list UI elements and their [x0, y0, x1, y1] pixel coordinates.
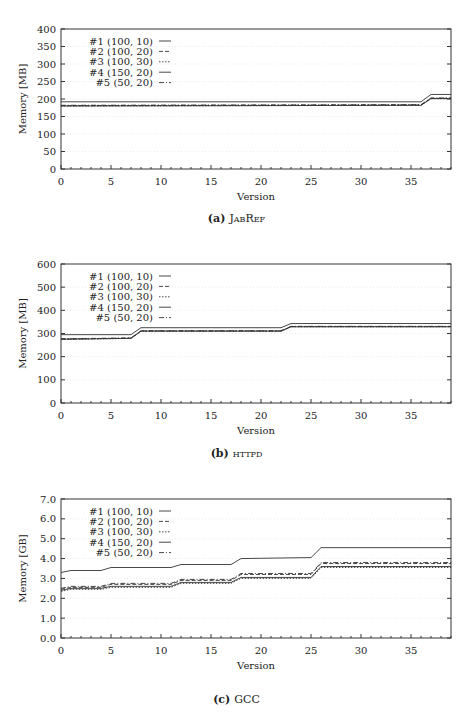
x-tick-label: 5: [108, 410, 114, 421]
x-tick-label: 35: [405, 176, 418, 187]
legend-label: #5 (50, 20): [95, 547, 153, 558]
caption-httpd: (b)httpd: [0, 447, 473, 460]
y-tick-label: 0: [50, 398, 56, 409]
x-tick-label: 5: [108, 176, 114, 187]
caption-name: GCC: [234, 693, 260, 706]
y-tick-label: 200: [37, 94, 56, 105]
x-tick-label: 25: [305, 176, 318, 187]
chart-gcc: 0.01.02.03.04.05.06.07.005101520253035Ve…: [0, 470, 473, 685]
y-tick-label: 6.0: [40, 513, 56, 524]
y-tick-label: 200: [37, 351, 56, 362]
y-tick-label: 300: [37, 328, 56, 339]
legend: #1 (100, 10)#2 (100, 20)#3 (100, 30)#4 (…: [89, 271, 171, 324]
x-tick-label: 35: [405, 645, 418, 656]
y-tick-label: 350: [37, 41, 56, 52]
legend-label: #3 (100, 30): [89, 291, 153, 302]
chart-httpd: 010020030040050060005101520253035Version…: [0, 235, 473, 450]
y-tick-label: 50: [43, 146, 56, 157]
series-line-1: [61, 94, 451, 101]
series-line-2: [61, 327, 451, 340]
x-tick-label: 10: [155, 645, 168, 656]
caption-name: JabRef: [229, 212, 265, 225]
y-tick-label: 1.0: [40, 613, 56, 624]
y-axis-label: Memory [GB]: [17, 534, 28, 603]
x-tick-label: 15: [205, 176, 218, 187]
y-tick-label: 0.0: [40, 633, 56, 644]
legend-label: #5 (50, 20): [95, 312, 153, 323]
legend-label: #2 (100, 20): [89, 46, 153, 57]
legend-label: #2 (100, 20): [89, 281, 153, 292]
y-axis-label: Memory [MB]: [17, 64, 28, 135]
series-group: [61, 324, 451, 340]
legend-label: #4 (150, 20): [89, 302, 153, 313]
x-tick-label: 15: [205, 645, 218, 656]
caption-name: httpd: [233, 447, 263, 460]
x-tick-label: 30: [355, 645, 368, 656]
x-tick-label: 0: [58, 645, 64, 656]
caption-label: (a): [208, 212, 226, 225]
series-line-5: [61, 326, 451, 339]
x-axis-label: Version: [236, 660, 275, 671]
y-tick-label: 100: [37, 129, 56, 140]
legend-label: #2 (100, 20): [89, 516, 153, 527]
x-tick-label: 15: [205, 410, 218, 421]
series-line-3: [61, 327, 451, 340]
x-axis-label: Version: [236, 425, 275, 436]
legend-label: #3 (100, 30): [89, 526, 153, 537]
y-tick-label: 600: [37, 259, 56, 270]
legend-label: #1 (100, 10): [89, 36, 153, 47]
chart-panel-gcc: 0.01.02.03.04.05.06.07.005101520253035Ve…: [0, 470, 473, 723]
legend-label: #4 (150, 20): [89, 537, 153, 548]
y-tick-label: 2.0: [40, 593, 56, 604]
legend-label: #5 (50, 20): [95, 77, 153, 88]
chart-panel-httpd: 010020030040050060005101520253035Version…: [0, 235, 473, 470]
legend-label: #1 (100, 10): [89, 271, 153, 282]
x-tick-label: 20: [255, 645, 268, 656]
chart-jabref: 05010015020025030035040005101520253035Ve…: [0, 0, 473, 215]
legend: #1 (100, 10)#2 (100, 20)#3 (100, 30)#4 (…: [89, 506, 171, 559]
x-tick-label: 0: [58, 410, 64, 421]
y-tick-label: 250: [37, 76, 56, 87]
x-axis-label: Version: [236, 191, 275, 202]
x-tick-label: 0: [58, 176, 64, 187]
legend-label: #1 (100, 10): [89, 506, 153, 517]
x-tick-label: 10: [155, 176, 168, 187]
y-axis-label: Memory [MB]: [17, 298, 28, 369]
x-tick-label: 10: [155, 410, 168, 421]
y-tick-label: 400: [37, 24, 56, 35]
x-axis: 05101520253035: [58, 634, 451, 656]
y-tick-label: 0: [50, 164, 56, 175]
x-axis: 05101520253035: [58, 165, 451, 187]
legend: #1 (100, 10)#2 (100, 20)#3 (100, 30)#4 (…: [89, 36, 171, 89]
x-tick-label: 5: [108, 645, 114, 656]
y-tick-label: 400: [37, 305, 56, 316]
series-line-3: [61, 568, 451, 592]
caption-label: (c): [213, 693, 230, 706]
y-tick-label: 150: [37, 111, 56, 122]
y-tick-label: 500: [37, 282, 56, 293]
x-tick-label: 35: [405, 410, 418, 421]
y-tick-label: 7.0: [40, 494, 56, 505]
y-tick-label: 4.0: [40, 553, 56, 564]
caption-jabref: (a)JabRef: [0, 212, 473, 225]
x-tick-label: 30: [355, 176, 368, 187]
y-tick-label: 100: [37, 374, 56, 385]
x-tick-label: 20: [255, 410, 268, 421]
caption-label: (b): [211, 447, 229, 460]
y-tick-label: 300: [37, 59, 56, 70]
x-tick-label: 25: [305, 645, 318, 656]
chart-panel-jabref: 05010015020025030035040005101520253035Ve…: [0, 0, 473, 235]
legend-label: #3 (100, 30): [89, 56, 153, 67]
y-tick-label: 5.0: [40, 533, 56, 544]
y-tick-label: 3.0: [40, 573, 56, 584]
caption-gcc: (c)GCC: [0, 693, 473, 706]
x-tick-label: 30: [355, 410, 368, 421]
series-group: [61, 94, 451, 106]
legend-label: #4 (150, 20): [89, 67, 153, 78]
series-line-4: [61, 327, 451, 340]
x-tick-label: 20: [255, 176, 268, 187]
x-tick-label: 25: [305, 410, 318, 421]
x-axis: 05101520253035: [58, 399, 451, 421]
series-line-1: [61, 324, 451, 335]
